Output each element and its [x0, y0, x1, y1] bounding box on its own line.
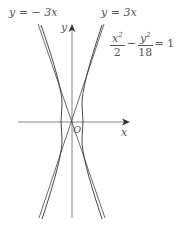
asymptote-positive-label: y = 3x [101, 6, 137, 19]
asymptote-negative-label: y = − 3x [9, 6, 57, 19]
fraction-y-squared-over-18: y2 18 [138, 29, 153, 59]
minus-sign: − [127, 37, 136, 50]
y-axis-label: y [61, 21, 67, 34]
hyperbola-equation: x2 2 − y2 18 = 1 [108, 29, 174, 59]
origin-label: O [73, 124, 81, 135]
y-axis-arrow-icon [69, 24, 76, 32]
asymptote-positive-line [39, 24, 104, 218]
equation-rhs: = 1 [155, 37, 175, 50]
fraction-x-squared-over-2: x2 2 [110, 29, 125, 59]
x-axis-label: x [121, 126, 127, 139]
